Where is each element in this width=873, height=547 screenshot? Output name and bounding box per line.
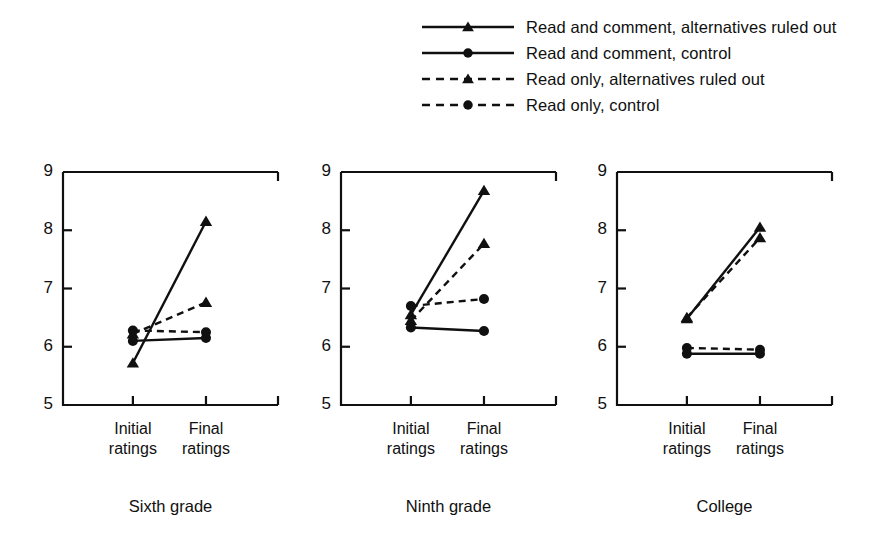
x-axis-tick-label-line: ratings (156, 439, 256, 459)
x-axis-tick-label: Finalratings (156, 419, 256, 459)
series-line-circle-dashed (411, 299, 484, 306)
series-line-circle-dashed (133, 330, 206, 332)
x-axis-tick-label-line: Final (156, 419, 256, 439)
marker-triangle (127, 357, 139, 367)
y-axis-tick-label: 9 (309, 161, 331, 181)
y-axis-tick-label: 7 (309, 278, 331, 298)
marker-circle (406, 301, 416, 311)
legend-label: Read only, control (516, 95, 660, 115)
marker-triangle (462, 73, 474, 83)
series-line-triangle-solid (133, 222, 206, 364)
y-axis-tick-label: 6 (585, 336, 607, 356)
marker-circle (463, 48, 473, 58)
marker-circle (406, 323, 416, 333)
y-axis-tick-label: 8 (31, 219, 53, 239)
series-line-triangle-dashed (133, 302, 206, 333)
legend-label: Read only, alternatives ruled out (516, 69, 765, 89)
chart-legend: Read and comment, alternatives ruled out… (420, 14, 850, 118)
marker-triangle (127, 328, 139, 338)
marker-triangle (405, 309, 417, 319)
series-line-triangle-solid (687, 227, 760, 318)
series-line-triangle-dashed (687, 238, 760, 318)
x-axis-tick-label-line: Final (434, 419, 534, 439)
y-axis-tick-label: 5 (309, 394, 331, 414)
marker-circle (128, 336, 138, 346)
marker-circle (479, 294, 489, 304)
y-axis-tick-label: 9 (585, 161, 607, 181)
legend-key-triangle-solid (420, 17, 516, 37)
marker-circle (128, 325, 138, 335)
y-axis-tick-label: 8 (309, 219, 331, 239)
panel-title-1: Sixth grade (23, 497, 318, 516)
legend-item: Read and comment, control (420, 40, 850, 66)
legend-key-circle-solid (420, 43, 516, 63)
x-axis-tick-label-line: ratings (434, 439, 534, 459)
legend-key-circle-dashed (420, 95, 516, 115)
marker-circle (682, 343, 692, 353)
marker-triangle (681, 312, 693, 322)
y-axis-tick-label: 5 (31, 394, 53, 414)
panel-title-3: College (577, 497, 872, 516)
y-axis-tick-label: 5 (585, 394, 607, 414)
axis-spine (63, 172, 278, 405)
marker-circle (479, 326, 489, 336)
axis-spine (617, 172, 832, 405)
x-axis-tick-label: Finalratings (434, 419, 534, 459)
marker-triangle (478, 238, 490, 248)
y-axis-tick-label: 6 (31, 336, 53, 356)
y-axis-tick-label: 9 (31, 161, 53, 181)
marker-circle (682, 349, 692, 359)
marker-circle (463, 100, 473, 110)
series-line-triangle-dashed (411, 244, 484, 321)
series-line-circle-dashed (687, 348, 760, 350)
legend-item: Read only, alternatives ruled out (420, 66, 850, 92)
marker-circle (755, 349, 765, 359)
x-axis-tick-label-line: ratings (710, 439, 810, 459)
marker-circle (755, 345, 765, 355)
series-line-triangle-solid (411, 191, 484, 315)
marker-triangle (200, 216, 212, 226)
legend-key-triangle-dashed (420, 69, 516, 89)
marker-circle (201, 327, 211, 337)
legend-label: Read and comment, alternatives ruled out (516, 17, 836, 37)
figure-root: Read and comment, alternatives ruled out… (0, 0, 873, 547)
x-axis-tick-label-line: Final (710, 419, 810, 439)
legend-item: Read only, control (420, 92, 850, 118)
marker-triangle (405, 315, 417, 325)
y-axis-tick-label: 7 (585, 278, 607, 298)
series-line-circle-solid (411, 328, 484, 331)
marker-triangle (478, 185, 490, 195)
axis-spine (341, 172, 556, 405)
legend-label: Read and comment, control (516, 43, 731, 63)
marker-circle (201, 333, 211, 343)
marker-triangle (681, 313, 693, 323)
marker-triangle (200, 297, 212, 307)
legend-item: Read and comment, alternatives ruled out (420, 14, 850, 40)
marker-triangle (754, 221, 766, 231)
y-axis-tick-label: 7 (31, 278, 53, 298)
x-axis-tick-label: Finalratings (710, 419, 810, 459)
series-line-circle-solid (133, 338, 206, 341)
marker-triangle (754, 232, 766, 242)
panel-title-2: Ninth grade (301, 497, 596, 516)
y-axis-tick-label: 6 (309, 336, 331, 356)
y-axis-tick-label: 8 (585, 219, 607, 239)
